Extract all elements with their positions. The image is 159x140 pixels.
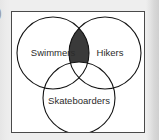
list-marker-paren: )	[0, 3, 8, 23]
set-label-skateboarders: Skateboarders	[48, 95, 110, 106]
figure-border-box: Swimmers Hikers Skateboarders	[11, 11, 145, 133]
set-label-hikers: Hikers	[97, 47, 124, 58]
venn-diagram-figure: )	[0, 0, 159, 140]
set-label-swimmers: Swimmers	[31, 47, 76, 58]
venn-svg-canvas: Swimmers Hikers Skateboarders	[12, 12, 144, 132]
